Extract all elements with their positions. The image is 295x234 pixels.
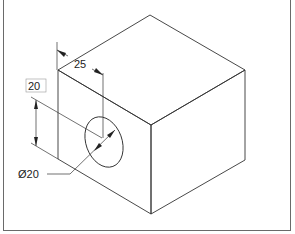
- dimension-20-label: 20: [28, 80, 40, 92]
- arrowhead-icon: [57, 50, 66, 57]
- cube-top-face: [58, 15, 245, 125]
- diameter-label: Ø20: [18, 168, 39, 180]
- hole-ellipse: [78, 111, 130, 172]
- isometric-drawing: 25 20 Ø20: [0, 0, 295, 234]
- arrowhead-icon: [34, 137, 38, 146]
- dimension-25-label: 25: [74, 58, 86, 70]
- arrowhead-icon: [34, 100, 38, 109]
- cube: [58, 15, 245, 214]
- diameter-leader: [47, 130, 115, 174]
- cube-right-face: [151, 70, 245, 214]
- arrowhead-icon: [94, 68, 103, 75]
- cube-left-face: [58, 70, 151, 214]
